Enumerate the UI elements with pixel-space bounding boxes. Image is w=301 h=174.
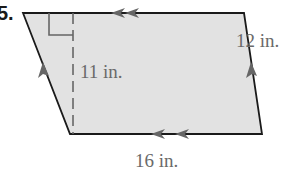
parallelogram-diagram: 11 in. 12 in. 16 in. bbox=[0, 0, 301, 174]
side-label: 12 in. bbox=[236, 30, 279, 51]
height-label: 11 in. bbox=[80, 61, 123, 82]
base-label: 16 in. bbox=[135, 150, 178, 171]
parallelogram bbox=[23, 13, 262, 134]
